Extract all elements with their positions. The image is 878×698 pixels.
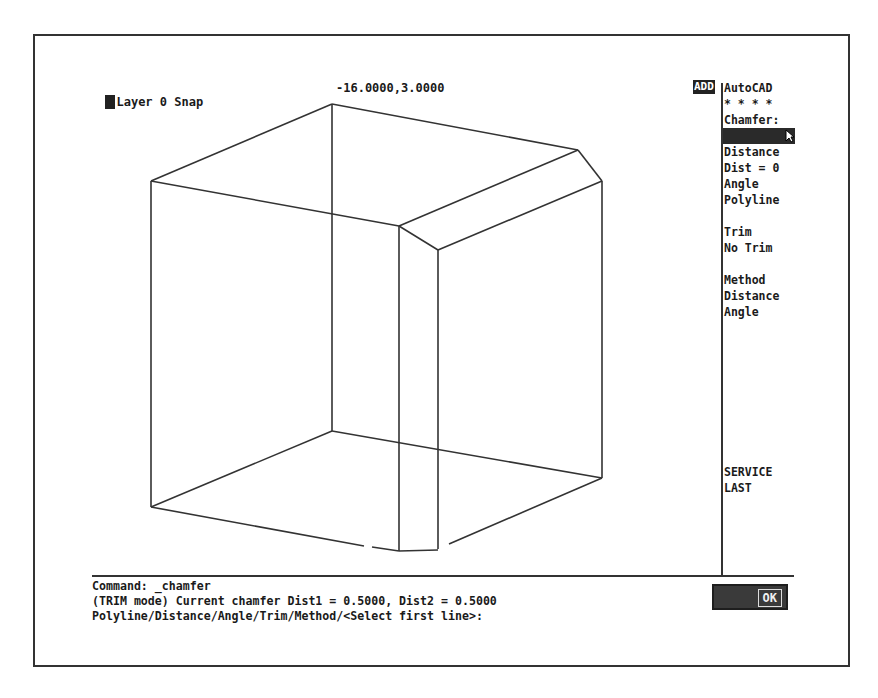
command-line-area[interactable]: Command: _chamfer (TRIM mode) Current ch…	[92, 579, 497, 624]
menu-item-trim[interactable]: Trim	[723, 224, 795, 240]
menu-item-service[interactable]: SERVICE	[723, 464, 795, 480]
menu-item-distance[interactable]: Distance	[723, 144, 795, 160]
add-mode-tag: ADD	[693, 80, 715, 94]
menu-item-angle[interactable]: Angle	[723, 176, 795, 192]
menu-item-method-distance[interactable]: Distance	[723, 288, 795, 304]
menu-spacer	[723, 320, 795, 464]
menu-item-autocad[interactable]: AutoCAD	[723, 80, 795, 96]
menu-item-asterisks[interactable]: * * * *	[723, 96, 795, 112]
menu-item-last[interactable]: LAST	[723, 480, 795, 496]
menu-item-chamfer[interactable]: Chamfer:	[723, 112, 795, 128]
menu-item-method[interactable]: Method	[723, 272, 795, 288]
command-area-divider	[92, 575, 794, 577]
ok-button-label: OK	[758, 589, 782, 607]
menu-spacer	[723, 256, 795, 272]
mouse-cursor-icon	[785, 129, 795, 143]
menu-item-polyline[interactable]: Polyline	[723, 192, 795, 208]
screen-menu: AutoCAD * * * * Chamfer: Distance Dist =…	[723, 80, 795, 496]
menu-item-no-trim[interactable]: No Trim	[723, 240, 795, 256]
chamfered-box-wireframe	[151, 104, 602, 551]
menu-item-method-angle[interactable]: Angle	[723, 304, 795, 320]
menu-spacer	[723, 208, 795, 224]
command-prompt: Polyline/Distance/Angle/Trim/Method/<Sel…	[92, 609, 497, 624]
command-line-1: Command: _chamfer	[92, 579, 497, 594]
menu-item-dist-value[interactable]: Dist = 0	[723, 160, 795, 176]
menu-item-selected[interactable]	[723, 128, 795, 144]
command-line-2: (TRIM mode) Current chamfer Dist1 = 0.50…	[92, 594, 497, 609]
ok-button[interactable]: OK	[712, 584, 788, 610]
